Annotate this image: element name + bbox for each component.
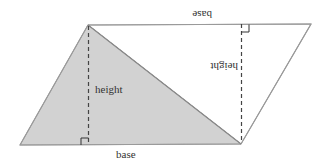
- parallelogram-diagram: height base base height: [0, 0, 327, 166]
- top-base-label-rotated: base: [192, 9, 212, 21]
- bottom-base-label: base: [116, 148, 136, 160]
- right-height-label-rotated: height: [211, 61, 239, 73]
- left-height-label: height: [95, 83, 123, 95]
